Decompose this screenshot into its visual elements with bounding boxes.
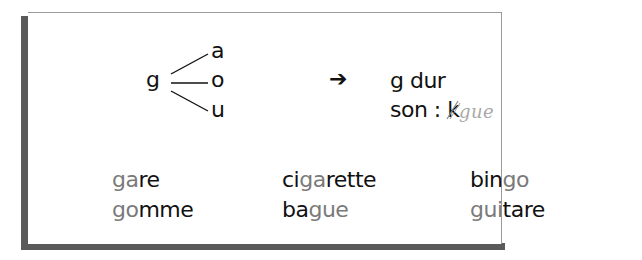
example-word: guitare [470,199,545,221]
example-word: gare [112,169,160,191]
arrow-right-icon: ➔ [329,68,347,90]
example-word: bague [282,199,348,221]
example-word: cigarette [282,169,376,191]
result-label: g dur [390,70,445,92]
vowel-o: o [211,69,224,91]
example-word: gomme [112,199,193,221]
example-word: bingo [470,169,529,191]
vowel-u: u [211,99,224,121]
rule-card: g a o u ➔ g dur son : k gue gare gomme c… [28,12,502,244]
sound-line: son : k [390,99,460,121]
vowel-a: a [211,40,224,62]
sound-label: son : [390,97,441,122]
handwritten-sound: gue [459,103,494,121]
branch-lines [28,13,502,245]
struck-sound: k [447,99,459,121]
